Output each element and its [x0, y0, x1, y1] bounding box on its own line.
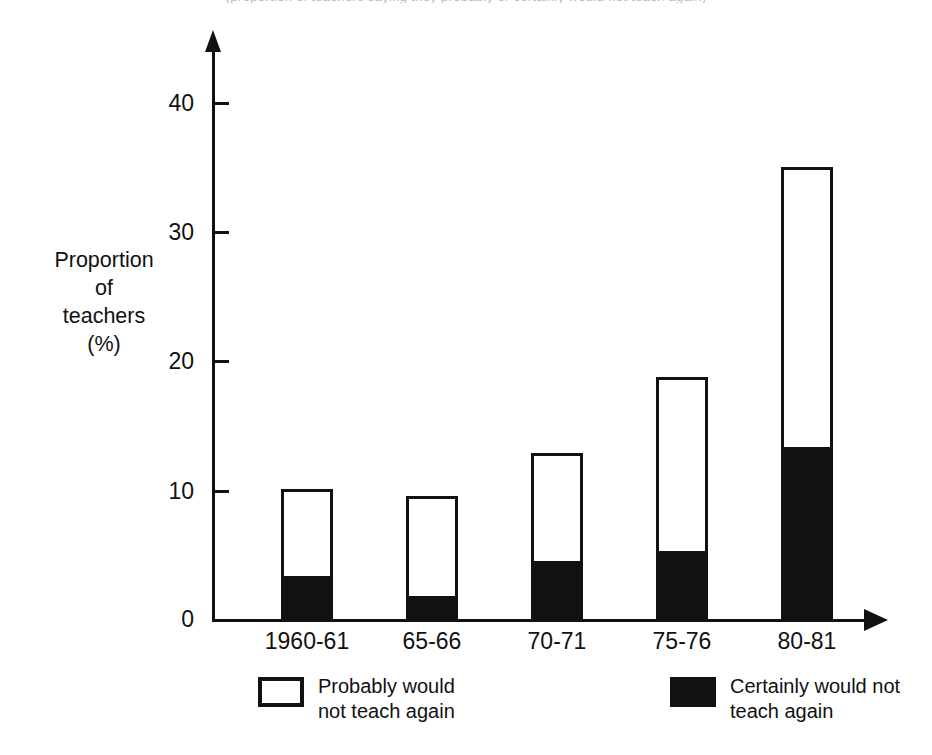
bar-80-81: [781, 167, 833, 620]
chart-root: (proportion of teachers saying they prob…: [0, 0, 932, 755]
legend-label-certainly: Certainly would not teach again: [730, 674, 900, 724]
legend-swatch-filled-icon: [670, 677, 716, 707]
bar-segment-certainly-80-81: [784, 447, 830, 617]
y-axis-title: Proportion of teachers (%): [22, 246, 186, 358]
y-axis-title-line-3: teachers: [22, 302, 186, 330]
y-axis-title-line-1: Proportion: [22, 246, 186, 274]
legend-item-certainly-would-not-teach-again: Certainly would not teach again: [670, 674, 900, 724]
y-tick-mark-30: [215, 231, 229, 234]
y-tick-label-30: 30: [134, 221, 194, 244]
bar-75-76: [656, 377, 708, 620]
x-tick-label-80-81: 80-81: [722, 628, 892, 654]
y-tick-mark-20: [215, 360, 229, 363]
y-tick-label-0: 0: [134, 608, 194, 631]
bar-segment-certainly-1960-61: [284, 576, 330, 617]
legend-swatch-hollow-icon: [258, 677, 304, 707]
bar-segment-certainly-65-66: [409, 596, 455, 617]
legend-label-certainly-line-2: teach again: [730, 699, 900, 724]
bar-70-71: [531, 453, 583, 620]
legend-label-probably-line-2: not teach again: [318, 699, 455, 724]
legend-item-probably-would-not-teach-again: Probably would not teach again: [258, 674, 455, 724]
y-tick-label-40: 40: [134, 92, 194, 115]
y-tick-mark-10: [215, 490, 229, 493]
legend-label-probably: Probably would not teach again: [318, 674, 455, 724]
bar-65-66: [406, 496, 458, 620]
bar-segment-certainly-70-71: [534, 561, 580, 617]
y-axis-line: [212, 44, 215, 622]
y-axis-arrow-icon: [205, 30, 221, 52]
y-axis-title-line-4: (%): [22, 330, 186, 358]
y-axis-title-line-2: of: [22, 274, 186, 302]
legend-label-probably-line-1: Probably would: [318, 674, 455, 699]
legend-label-certainly-line-1: Certainly would not: [730, 674, 900, 699]
y-tick-mark-40: [215, 102, 229, 105]
y-tick-label-10: 10: [134, 480, 194, 503]
bar-1960-61: [281, 489, 333, 620]
bar-segment-certainly-75-76: [659, 551, 705, 617]
chart-legend: Probably would not teach again Certainly…: [0, 674, 932, 734]
plot-area: 40 30 20 10 0 Proportion of teachers (%)…: [0, 0, 932, 755]
